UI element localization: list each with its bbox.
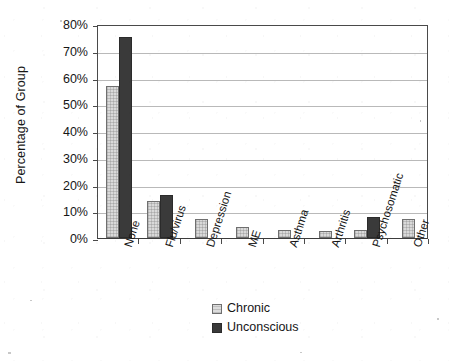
legend-swatch-chronic	[212, 304, 222, 314]
x-tick-mark	[180, 239, 181, 244]
x-tick-label: Arthritis	[329, 208, 352, 249]
scan-speck	[437, 318, 439, 320]
scan-speck	[60, 20, 62, 22]
scan-speck	[420, 120, 421, 122]
scan-speck	[8, 352, 11, 354]
x-tick-label: Psychosomatic	[370, 171, 405, 248]
scan-speck	[300, 352, 302, 353]
x-tick-label: ME	[246, 229, 263, 249]
x-tick-mark	[304, 239, 305, 244]
legend-item-unconscious: Unconscious	[212, 318, 299, 337]
x-tick-label: Other	[411, 218, 431, 249]
x-tick-label: None	[122, 219, 142, 249]
legend-label-chronic: Chronic	[227, 302, 270, 315]
scan-speck	[30, 300, 32, 301]
x-tick-label: Flu/virus	[163, 204, 188, 249]
x-tick-mark	[263, 239, 264, 244]
legend-swatch-unconscious	[212, 323, 222, 333]
legend-item-chronic: Chronic	[212, 299, 299, 318]
x-tick-mark	[428, 239, 429, 244]
x-tick-label: Depression	[204, 190, 233, 249]
x-tick-mark	[387, 239, 388, 244]
x-tick-mark	[138, 239, 139, 244]
bar-chart: Percentage of Group 0%10%20%30%40%50%60%…	[0, 0, 449, 361]
chart-legend: Chronic Unconscious	[212, 299, 299, 337]
x-tick-mark	[345, 239, 346, 244]
x-tick-label: Asthma	[287, 208, 310, 249]
legend-label-unconscious: Unconscious	[227, 321, 299, 334]
x-tick-mark	[221, 239, 222, 244]
